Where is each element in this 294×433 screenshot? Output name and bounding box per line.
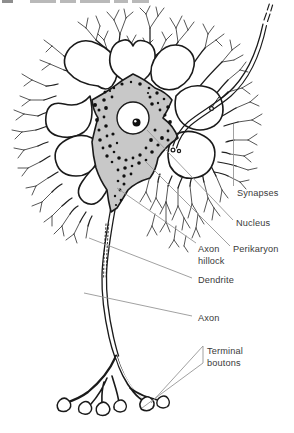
nissl-granule	[111, 132, 114, 135]
nissl-granule	[106, 135, 109, 138]
nissl-granule	[132, 157, 135, 160]
nissl-granule	[113, 151, 116, 154]
nissl-granule	[149, 138, 153, 142]
nissl-granule	[154, 129, 157, 132]
nissl-granule	[160, 136, 164, 140]
terminal-boutons-leader-line	[142, 363, 203, 408]
label-terminal-boutons: Terminal boutons	[207, 346, 251, 369]
nissl-granule	[103, 116, 106, 119]
book-page: Synapses Nucleus Perikaryon Axon hillock…	[0, 0, 294, 433]
nissl-granule	[164, 114, 167, 117]
nissl-granule	[159, 109, 162, 112]
nissl-granule	[98, 109, 101, 112]
label-axon-hillock: Axon hillock	[198, 244, 232, 267]
nissl-granule	[117, 169, 120, 172]
nissl-granule	[163, 98, 166, 101]
nissl-granule	[167, 139, 170, 142]
nissl-granule	[120, 82, 123, 85]
nissl-granule	[130, 173, 133, 176]
nissl-granule	[168, 120, 172, 124]
nucleus-shape	[117, 102, 149, 134]
nissl-granule	[138, 82, 142, 86]
nissl-granule	[104, 106, 108, 110]
nissl-granule	[111, 161, 114, 164]
nissl-granule	[149, 96, 152, 99]
nissl-granule	[95, 118, 99, 122]
axon-shaft	[102, 210, 119, 359]
nissl-granule	[111, 96, 114, 99]
nissl-granule	[115, 204, 117, 206]
label-axon: Axon	[198, 313, 220, 325]
label-nucleus: Nucleus	[236, 218, 270, 230]
label-synapses: Synapses	[237, 188, 279, 200]
nissl-granule	[124, 158, 127, 161]
nissl-granule	[98, 129, 101, 132]
nissl-granule	[104, 124, 108, 128]
nissl-granule	[137, 161, 141, 165]
label-dendrite: Dendrite	[198, 275, 234, 287]
nissl-granule	[117, 180, 120, 183]
nissl-granule	[150, 102, 154, 106]
nissl-granule	[105, 154, 108, 157]
nissl-granule	[122, 174, 125, 177]
nissl-granule	[104, 91, 107, 94]
nissl-granule	[116, 142, 118, 144]
nissl-granule	[108, 144, 112, 148]
nissl-granule	[113, 87, 115, 89]
nissl-granule	[138, 153, 141, 156]
nissl-granule	[157, 102, 159, 104]
nissl-granule	[102, 98, 106, 102]
nissl-granule	[123, 166, 127, 170]
nissl-granule	[155, 91, 158, 94]
nissl-granule	[167, 130, 170, 133]
label-perikaryon: Perikaryon	[233, 244, 278, 256]
nissl-granule	[166, 105, 170, 109]
nissl-granule	[148, 87, 151, 90]
nissl-granule	[145, 147, 148, 150]
nissl-granule	[109, 90, 111, 92]
nissl-granule	[98, 138, 102, 142]
nissl-granule	[114, 195, 116, 197]
nissl-granule	[147, 92, 149, 94]
nissl-granule	[150, 150, 154, 154]
nissl-granule	[93, 103, 97, 107]
nissl-granule	[123, 183, 126, 186]
nissl-granule	[120, 199, 123, 202]
terminal-boutons-leader-line	[151, 346, 203, 403]
nucleolus-highlight	[134, 120, 136, 122]
nissl-granule	[131, 165, 134, 168]
nissl-granule	[117, 156, 121, 160]
nissl-granule	[156, 143, 159, 146]
axon-leader-line	[84, 293, 192, 316]
nissl-granule	[102, 147, 105, 150]
nucleolus-shape	[133, 119, 141, 127]
nissl-granule	[130, 81, 132, 83]
